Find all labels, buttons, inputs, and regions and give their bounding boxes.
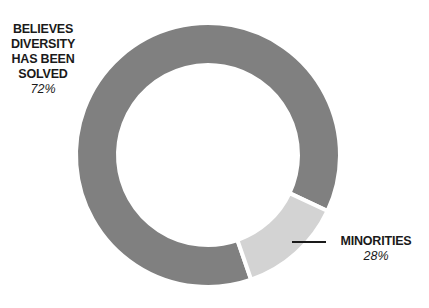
slice-percent: 28% <box>334 249 418 264</box>
slice-name: MINORITIES <box>334 234 418 249</box>
slice-percent: 72% <box>6 82 80 97</box>
slice-label-minorities: MINORITIES 28% <box>334 234 418 264</box>
slice-label-believes-solved: BELIEVES DIVERSITY HAS BEEN SOLVED 72% <box>6 22 80 97</box>
slice-minorities <box>237 193 327 280</box>
slice-name: BELIEVES DIVERSITY HAS BEEN SOLVED <box>6 22 80 82</box>
